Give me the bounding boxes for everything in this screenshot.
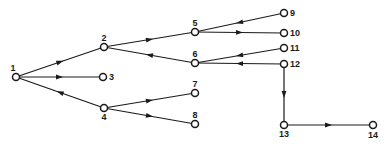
node-1: 1 bbox=[10, 63, 19, 81]
node-2: 2 bbox=[101, 33, 108, 51]
arrowhead-icon bbox=[146, 99, 153, 104]
node-12: 12 bbox=[281, 59, 301, 69]
edge-6-to-2 bbox=[104, 47, 195, 63]
arrowhead-icon bbox=[146, 53, 153, 58]
edge-4-to-7 bbox=[104, 93, 195, 108]
node-label: 8 bbox=[192, 110, 197, 120]
node-circle-icon bbox=[100, 74, 107, 81]
node-7: 7 bbox=[192, 79, 199, 97]
node-circle-icon bbox=[192, 29, 199, 36]
node-circle-icon bbox=[192, 121, 199, 128]
node-8: 8 bbox=[192, 110, 199, 128]
arrowhead-icon bbox=[146, 113, 153, 118]
node-circle-icon bbox=[281, 30, 288, 37]
arrowhead-icon bbox=[57, 91, 64, 96]
node-label: 6 bbox=[192, 49, 197, 59]
edge-4-to-8 bbox=[104, 108, 195, 124]
node-14: 14 bbox=[368, 122, 378, 141]
arrowhead-icon bbox=[236, 61, 243, 66]
node-label: 2 bbox=[101, 33, 106, 43]
nodes-layer: 1234567891011121314 bbox=[10, 8, 378, 140]
edge-13-to-14 bbox=[284, 123, 373, 128]
node-circle-icon bbox=[281, 122, 288, 129]
edge-4-to-1 bbox=[16, 77, 104, 108]
node-circle-icon bbox=[281, 61, 288, 68]
edge-1-to-2 bbox=[16, 47, 104, 77]
node-circle-icon bbox=[192, 90, 199, 97]
arrowhead-icon bbox=[56, 61, 63, 66]
edge-11-to-6 bbox=[195, 48, 284, 63]
edge-1-to-3 bbox=[16, 75, 103, 80]
node-label: 11 bbox=[290, 43, 300, 53]
node-circle-icon bbox=[101, 44, 108, 51]
node-4: 4 bbox=[101, 105, 108, 123]
node-circle-icon bbox=[281, 45, 288, 52]
node-circle-icon bbox=[281, 10, 288, 17]
arrowhead-icon bbox=[236, 53, 243, 58]
node-10: 10 bbox=[281, 28, 301, 38]
arrowhead-icon bbox=[146, 38, 153, 43]
arrowhead-icon bbox=[325, 123, 332, 128]
node-circle-icon bbox=[370, 122, 377, 129]
node-label: 1 bbox=[10, 63, 15, 73]
node-6: 6 bbox=[192, 49, 199, 67]
edge-9-to-5 bbox=[195, 13, 284, 32]
node-label: 3 bbox=[109, 72, 114, 82]
node-13: 13 bbox=[279, 122, 289, 140]
edge-2-to-5 bbox=[104, 32, 195, 47]
node-5: 5 bbox=[192, 18, 199, 36]
edge-12-to-6 bbox=[195, 61, 284, 66]
node-label: 10 bbox=[290, 28, 300, 38]
node-11: 11 bbox=[281, 43, 300, 53]
node-label: 14 bbox=[368, 130, 378, 140]
node-3: 3 bbox=[100, 72, 115, 82]
node-label: 13 bbox=[279, 129, 289, 139]
directed-graph: 1234567891011121314 bbox=[0, 0, 389, 144]
node-label: 5 bbox=[192, 18, 197, 28]
arrowhead-icon bbox=[56, 75, 63, 80]
arrowhead-icon bbox=[236, 30, 243, 35]
node-circle-icon bbox=[101, 105, 108, 112]
node-label: 9 bbox=[290, 8, 295, 18]
node-circle-icon bbox=[13, 74, 20, 81]
edge-5-to-10 bbox=[195, 30, 284, 35]
node-label: 4 bbox=[101, 112, 106, 122]
node-9: 9 bbox=[281, 8, 296, 18]
node-label: 7 bbox=[192, 79, 197, 89]
node-label: 12 bbox=[290, 59, 300, 69]
arrowhead-icon bbox=[282, 91, 287, 98]
node-circle-icon bbox=[192, 60, 199, 67]
edge-12-to-13 bbox=[282, 64, 287, 125]
